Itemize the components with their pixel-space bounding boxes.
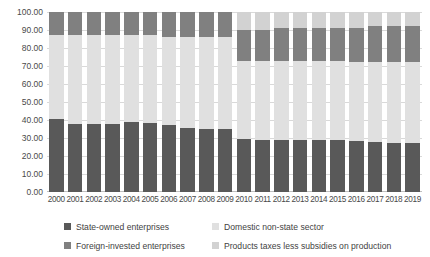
- stacked-bar[interactable]: [68, 12, 83, 192]
- stacked-bar[interactable]: [105, 12, 120, 192]
- bar-segment[interactable]: [162, 12, 177, 37]
- bar-segment[interactable]: [274, 61, 289, 140]
- legend-item[interactable]: Products taxes less subsidies on product…: [212, 241, 404, 251]
- bar-segment[interactable]: [68, 12, 83, 35]
- stacked-bar[interactable]: [387, 12, 402, 192]
- bar-segment[interactable]: [349, 141, 364, 192]
- bar-segment[interactable]: [255, 61, 270, 140]
- bar-segment[interactable]: [368, 62, 383, 142]
- bar-segment[interactable]: [143, 123, 158, 192]
- bar-segment[interactable]: [293, 28, 308, 60]
- bar-segment[interactable]: [143, 35, 158, 122]
- stacked-bar[interactable]: [255, 12, 270, 192]
- legend-item[interactable]: Domestic non-state sector: [212, 222, 404, 232]
- bar-segment[interactable]: [237, 61, 252, 139]
- bar-segment[interactable]: [105, 35, 120, 123]
- bar-segment[interactable]: [330, 28, 345, 60]
- stacked-bar[interactable]: [143, 12, 158, 192]
- bar-segment[interactable]: [387, 26, 402, 62]
- bar-segment[interactable]: [68, 35, 83, 123]
- bar-segment[interactable]: [293, 61, 308, 140]
- bar-segment[interactable]: [49, 12, 64, 35]
- bar-segment[interactable]: [312, 140, 327, 192]
- stacked-bar[interactable]: [405, 12, 420, 192]
- stacked-bar[interactable]: [199, 12, 214, 192]
- stacked-bar[interactable]: [237, 12, 252, 192]
- bar-segment[interactable]: [124, 35, 139, 121]
- bar-segment[interactable]: [68, 124, 83, 192]
- bar-segment[interactable]: [199, 37, 214, 129]
- stacked-bar[interactable]: [124, 12, 139, 192]
- bar-segment[interactable]: [387, 62, 402, 143]
- stacked-bar[interactable]: [330, 12, 345, 192]
- bar-segment[interactable]: [293, 12, 308, 28]
- y-axis-tick-label: 10.00: [22, 170, 43, 178]
- bar-segment[interactable]: [349, 12, 364, 28]
- bar-segment[interactable]: [199, 12, 214, 37]
- bar-segment[interactable]: [368, 12, 383, 26]
- bar-segment[interactable]: [330, 140, 345, 192]
- bar-segment[interactable]: [330, 12, 345, 28]
- stacked-bar[interactable]: [274, 12, 289, 192]
- bar-segment[interactable]: [274, 28, 289, 60]
- bar-segment[interactable]: [87, 124, 102, 192]
- bar-segment[interactable]: [105, 12, 120, 35]
- bar-segment[interactable]: [180, 12, 195, 37]
- bar-segment[interactable]: [387, 12, 402, 26]
- bar-segment[interactable]: [237, 12, 252, 30]
- stacked-bar[interactable]: [312, 12, 327, 192]
- bar-segment[interactable]: [368, 26, 383, 61]
- bar-segment[interactable]: [405, 143, 420, 193]
- bar-segment[interactable]: [124, 122, 139, 192]
- bar-segment[interactable]: [124, 12, 139, 35]
- x-axis-tick-label: 2008: [197, 194, 216, 210]
- bar-segment[interactable]: [387, 143, 402, 193]
- bar-slot: [310, 12, 329, 192]
- x-axis-tick-label: 2010: [235, 194, 254, 210]
- bar-segment[interactable]: [143, 12, 158, 35]
- bar-slot: [216, 12, 235, 192]
- legend-item[interactable]: Foreign-invested enterprises: [64, 241, 212, 251]
- bar-segment[interactable]: [368, 142, 383, 192]
- legend-item[interactable]: State-owned enterprises: [64, 222, 212, 232]
- bar-segment[interactable]: [105, 124, 120, 192]
- bar-segment[interactable]: [293, 140, 308, 192]
- bar-segment[interactable]: [87, 12, 102, 35]
- bar-segment[interactable]: [405, 12, 420, 26]
- bar-segment[interactable]: [312, 12, 327, 28]
- stacked-bar[interactable]: [180, 12, 195, 192]
- bar-segment[interactable]: [49, 35, 64, 120]
- bar-segment[interactable]: [180, 37, 195, 128]
- bar-segment[interactable]: [312, 61, 327, 140]
- stacked-bar[interactable]: [349, 12, 364, 192]
- stacked-bar[interactable]: [49, 12, 64, 192]
- bar-segment[interactable]: [237, 30, 252, 61]
- stacked-bar[interactable]: [162, 12, 177, 192]
- bar-segment[interactable]: [218, 12, 233, 37]
- bar-segment[interactable]: [405, 26, 420, 62]
- bar-segment[interactable]: [162, 37, 177, 124]
- bar-segment[interactable]: [255, 30, 270, 61]
- bar-segment[interactable]: [180, 128, 195, 192]
- stacked-bar[interactable]: [218, 12, 233, 192]
- bar-segment[interactable]: [49, 119, 64, 192]
- y-axis-tick-label: 100.00: [17, 8, 43, 16]
- bar-segment[interactable]: [312, 28, 327, 60]
- bar-segment[interactable]: [349, 62, 364, 141]
- bar-segment[interactable]: [87, 35, 102, 123]
- bar-segment[interactable]: [330, 61, 345, 140]
- bar-segment[interactable]: [218, 37, 233, 129]
- bar-segment[interactable]: [274, 140, 289, 192]
- stacked-bar[interactable]: [293, 12, 308, 192]
- bar-segment[interactable]: [255, 140, 270, 192]
- bar-segment[interactable]: [349, 28, 364, 61]
- bar-segment[interactable]: [255, 12, 270, 30]
- bar-segment[interactable]: [199, 129, 214, 192]
- stacked-bar[interactable]: [87, 12, 102, 192]
- bar-segment[interactable]: [237, 139, 252, 192]
- stacked-bar[interactable]: [368, 12, 383, 192]
- bar-segment[interactable]: [218, 129, 233, 192]
- bar-segment[interactable]: [162, 125, 177, 193]
- bar-segment[interactable]: [274, 12, 289, 28]
- bar-segment[interactable]: [405, 62, 420, 143]
